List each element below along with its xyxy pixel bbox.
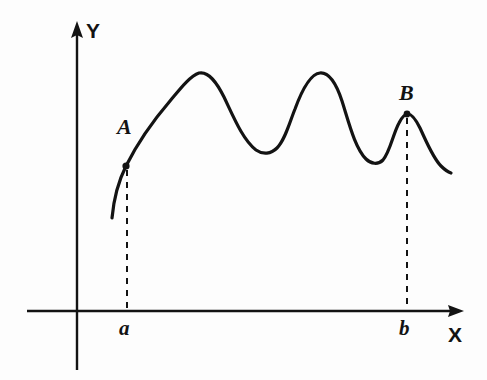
x-axis-arrow-icon bbox=[448, 305, 464, 317]
x-tick-label-a: a bbox=[119, 318, 130, 339]
y-axis-label: Y bbox=[86, 20, 100, 41]
x-axis-label: X bbox=[448, 324, 462, 345]
diagram-canvas bbox=[0, 0, 487, 380]
x-tick-label-b: b bbox=[399, 318, 410, 339]
point-label-a: A bbox=[117, 116, 132, 138]
point-label-b: B bbox=[399, 82, 414, 104]
function-graph-diagram: Y X a b A B bbox=[0, 0, 487, 380]
point-a-marker bbox=[122, 162, 129, 169]
point-b-marker bbox=[404, 111, 411, 118]
